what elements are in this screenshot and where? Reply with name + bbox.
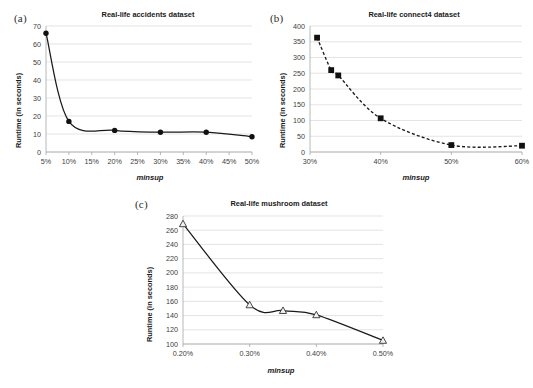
data-point-marker (204, 130, 209, 135)
y-tick-label: 250 (293, 69, 305, 78)
x-axis-title-c: minsup (191, 366, 371, 375)
data-point-marker (328, 67, 334, 73)
x-tick-label: 0.20% (173, 349, 194, 358)
y-tick-label: 200 (166, 268, 178, 277)
y-tick-label: 140 (166, 311, 178, 320)
data-point-marker (519, 143, 525, 149)
y-tick-label: 160 (166, 297, 178, 306)
x-tick-label: 40% (199, 157, 214, 166)
data-point-marker (43, 31, 48, 36)
x-tick-label: 5% (41, 157, 52, 166)
x-tick-label: 15% (85, 157, 100, 166)
y-tick-label: 0 (37, 148, 41, 157)
x-tick-label: 60% (515, 157, 530, 166)
data-series-line (183, 224, 383, 341)
y-tick-label: 220 (166, 254, 178, 263)
data-series-line (46, 33, 252, 137)
x-tick-label: 25% (130, 157, 145, 166)
x-tick-label: 20% (107, 157, 122, 166)
x-tick-label: 0.30% (239, 349, 260, 358)
y-tick-label: 240 (166, 240, 178, 249)
y-tick-label: 10 (33, 130, 41, 139)
x-tick-label: 45% (222, 157, 237, 166)
y-tick-label: 60 (33, 40, 41, 49)
x-tick-label: 30% (153, 157, 168, 166)
data-point-marker (448, 142, 454, 148)
y-tick-label: 30 (33, 94, 41, 103)
data-point-marker (158, 130, 163, 135)
y-tick-label: 50 (297, 132, 305, 141)
data-point-marker (179, 220, 186, 226)
x-tick-label: 30% (303, 157, 318, 166)
data-point-marker (378, 115, 384, 121)
y-tick-label: 180 (166, 283, 178, 292)
x-tick-label: 0.40% (306, 349, 327, 358)
chart-panel-a: (a) Real-life accidents dataset Runtime … (0, 0, 266, 194)
y-tick-label: 260 (166, 226, 178, 235)
chart-panel-b: (b) Real-life connect4 dataset Runtime (… (266, 0, 533, 194)
data-point-marker (314, 35, 320, 41)
x-tick-label: 10% (62, 157, 77, 166)
y-tick-label: 150 (293, 100, 305, 109)
y-tick-label: 350 (293, 37, 305, 46)
chart-panel-c: (c) Real-life mushroom dataset Runtime (… (133, 194, 400, 388)
x-tick-label: 50% (444, 157, 459, 166)
data-point-marker (66, 119, 71, 124)
y-tick-label: 40 (33, 76, 41, 85)
y-tick-label: 70 (33, 22, 41, 31)
y-tick-label: 100 (293, 116, 305, 125)
y-tick-label: 280 (166, 212, 178, 221)
data-series-line (317, 38, 522, 148)
plot-area-c: 1001201401601802002202402602800.20%0.30%… (133, 194, 400, 362)
data-point-marker (335, 73, 341, 79)
plot-area-a: 0102030405060705%10%15%20%25%30%35%40%45… (0, 0, 266, 170)
y-tick-label: 120 (166, 325, 178, 334)
x-tick-label: 50% (245, 157, 260, 166)
y-tick-label: 50 (33, 58, 41, 67)
y-tick-label: 20 (33, 112, 41, 121)
y-tick-label: 300 (293, 53, 305, 62)
plot-area-b: 05010015020025030035040030%40%50%60% (266, 0, 533, 170)
x-tick-label: 0.50% (373, 349, 394, 358)
y-tick-label: 0 (301, 148, 305, 157)
x-axis-title-a: minsup (60, 173, 240, 182)
y-tick-label: 100 (166, 340, 178, 349)
y-tick-label: 400 (293, 22, 305, 31)
x-tick-label: 35% (176, 157, 191, 166)
y-tick-label: 200 (293, 85, 305, 94)
data-point-marker (112, 128, 117, 133)
x-tick-label: 40% (373, 157, 388, 166)
data-point-marker (249, 134, 254, 139)
x-axis-title-b: minsup (326, 173, 506, 182)
